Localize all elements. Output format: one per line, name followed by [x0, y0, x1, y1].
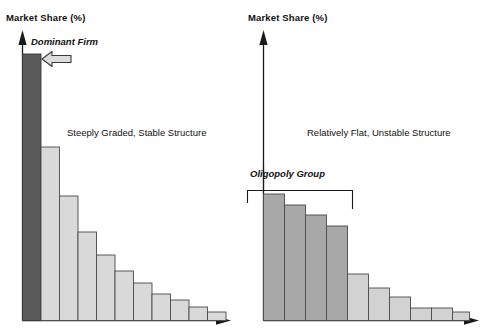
- bar-left-4: [78, 232, 97, 321]
- right-chart-bars: [264, 194, 470, 321]
- bar-left-9: [171, 300, 190, 321]
- bar-left-8: [152, 294, 171, 321]
- chart-vector-layer: [0, 0, 499, 334]
- bar-left-7: [134, 283, 153, 321]
- bar-right-3: [306, 215, 327, 321]
- bar-right-2: [285, 205, 306, 321]
- bar-right-5: [348, 274, 369, 321]
- bar-left-5: [97, 255, 116, 321]
- left-chart-bars: [23, 54, 227, 321]
- bar-right-4: [327, 226, 348, 321]
- left-arrow-icon: [42, 52, 71, 67]
- bar-right-7: [390, 297, 411, 321]
- bar-left-3: [60, 196, 79, 321]
- bar-left-2: [41, 147, 60, 321]
- right-chart: [248, 30, 480, 325]
- bar-left-11: [208, 312, 227, 321]
- bar-left-1: [23, 54, 42, 321]
- market-share-structure-figure: Market Share (%) Dominant Firm Steeply G…: [0, 0, 499, 334]
- bar-right-9: [432, 308, 453, 321]
- bar-left-6: [115, 271, 134, 321]
- bar-right-6: [369, 288, 390, 321]
- left-chart: [18, 30, 231, 325]
- bar-right-8: [411, 308, 432, 321]
- bar-right-10: [453, 312, 470, 321]
- bar-left-10: [189, 307, 208, 321]
- bar-right-1: [264, 194, 285, 321]
